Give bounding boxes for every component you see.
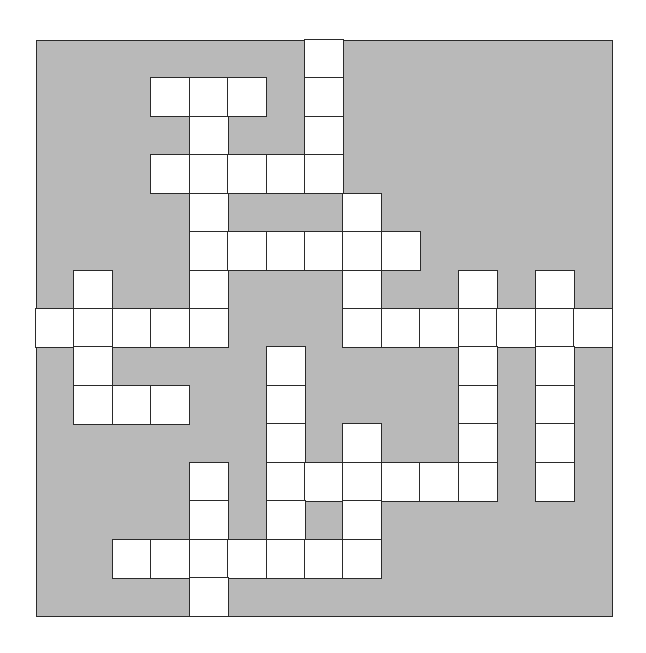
crossword-cell[interactable] (189, 577, 229, 617)
crossword-cell[interactable] (458, 423, 498, 463)
crossword-cell[interactable] (112, 539, 152, 579)
crossword-cell[interactable] (189, 500, 229, 540)
crossword-cell[interactable] (35, 308, 75, 348)
crossword-cell[interactable] (189, 539, 229, 579)
crossword-cell[interactable] (381, 308, 421, 348)
crossword-cell[interactable] (304, 39, 344, 79)
crossword-cell[interactable] (381, 462, 421, 502)
crossword-cell[interactable] (342, 270, 382, 310)
crossword-cell[interactable] (189, 193, 229, 233)
crossword-cell[interactable] (304, 462, 344, 502)
crossword-cell[interactable] (189, 308, 229, 348)
crossword-cell[interactable] (342, 423, 382, 463)
crossword-cell[interactable] (150, 385, 190, 425)
crossword-cell[interactable] (266, 500, 306, 540)
crossword-cell[interactable] (150, 308, 190, 348)
crossword-cell[interactable] (535, 462, 575, 502)
crossword-cell[interactable] (189, 231, 229, 271)
crossword-cell[interactable] (419, 308, 459, 348)
crossword-cell[interactable] (150, 154, 190, 194)
crossword-cell[interactable] (189, 116, 229, 156)
crossword-cell[interactable] (266, 231, 306, 271)
crossword-cell[interactable] (458, 270, 498, 310)
crossword-cell[interactable] (112, 385, 152, 425)
crossword-cell[interactable] (189, 270, 229, 310)
crossword-cell[interactable] (73, 385, 113, 425)
crossword-cell[interactable] (266, 423, 306, 463)
crossword-cell[interactable] (227, 154, 267, 194)
crossword-cell[interactable] (73, 308, 113, 348)
crossword-cell[interactable] (150, 539, 190, 579)
crossword-cell[interactable] (458, 385, 498, 425)
crossword-cell[interactable] (458, 308, 498, 348)
crossword-cell[interactable] (419, 462, 459, 502)
crossword-cell[interactable] (266, 385, 306, 425)
crossword-cell[interactable] (266, 154, 306, 194)
crossword-cell[interactable] (458, 346, 498, 386)
crossword-cell[interactable] (342, 193, 382, 233)
crossword-cell[interactable] (73, 346, 113, 386)
crossword-cell[interactable] (304, 116, 344, 156)
crossword-cell[interactable] (227, 231, 267, 271)
crossword-cell[interactable] (227, 539, 267, 579)
crossword-cell[interactable] (266, 462, 306, 502)
crossword-cell[interactable] (535, 385, 575, 425)
crossword-cell[interactable] (496, 308, 536, 348)
crossword-cell[interactable] (304, 154, 344, 194)
crossword-grid (36, 40, 613, 617)
crossword-cell[interactable] (381, 231, 421, 271)
crossword-cell[interactable] (535, 270, 575, 310)
crossword-cell[interactable] (189, 154, 229, 194)
crossword-cell[interactable] (304, 77, 344, 117)
crossword-cell[interactable] (342, 308, 382, 348)
crossword-cell[interactable] (342, 500, 382, 540)
crossword-cell[interactable] (573, 308, 613, 348)
crossword-cell[interactable] (150, 77, 190, 117)
crossword-cell[interactable] (112, 308, 152, 348)
crossword-cell[interactable] (535, 346, 575, 386)
crossword-cell[interactable] (266, 539, 306, 579)
crossword-cell[interactable] (342, 231, 382, 271)
crossword-cell[interactable] (304, 539, 344, 579)
crossword-cell[interactable] (189, 77, 229, 117)
crossword-cell[interactable] (73, 270, 113, 310)
crossword-cell[interactable] (535, 308, 575, 348)
crossword-cell[interactable] (342, 539, 382, 579)
crossword-cell[interactable] (535, 423, 575, 463)
crossword-cell[interactable] (458, 462, 498, 502)
crossword-cell[interactable] (266, 346, 306, 386)
crossword-cell[interactable] (227, 77, 267, 117)
crossword-cell[interactable] (189, 462, 229, 502)
crossword-cell[interactable] (342, 462, 382, 502)
crossword-cell[interactable] (304, 231, 344, 271)
